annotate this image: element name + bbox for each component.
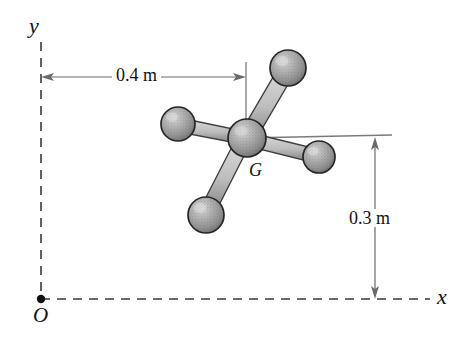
- origin-label: O: [33, 305, 48, 326]
- sphere-upper-right: [270, 50, 306, 86]
- sphere-left: [161, 107, 195, 141]
- dimension-label-vertical: 0.3 m: [345, 209, 394, 227]
- y-axis-label: y: [29, 15, 39, 37]
- hub-sphere-g: [228, 119, 266, 157]
- diagram-canvas: [0, 0, 468, 345]
- sphere-lower-left: [188, 197, 224, 233]
- physics-diagram-figure: y x O G 0.4 m 0.3 m: [0, 0, 468, 345]
- origin-dot: [37, 295, 45, 303]
- sphere-right: [303, 141, 335, 173]
- mass-center-label: G: [249, 161, 262, 179]
- dimension-label-horizontal: 0.4 m: [112, 66, 161, 84]
- x-axis-label: x: [437, 286, 447, 308]
